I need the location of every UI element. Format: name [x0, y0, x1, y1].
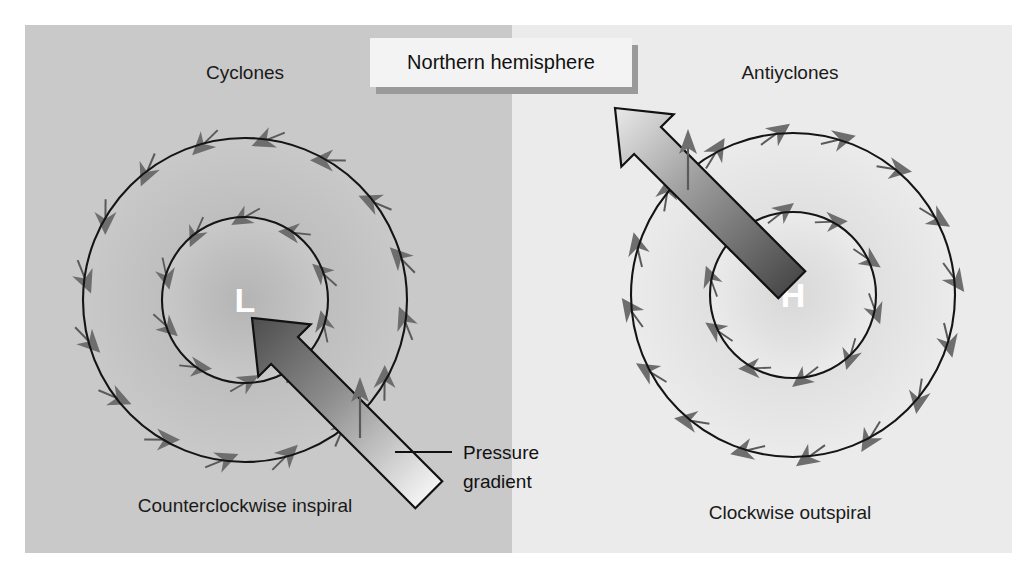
low-pressure-center-letter: L: [235, 281, 256, 319]
antiyclones-heading: Antiyclones: [741, 62, 838, 83]
pressure-gradient-label-line2: gradient: [463, 471, 532, 492]
title-banner-text: Northern hemisphere: [407, 51, 595, 73]
cyclones-caption: Counterclockwise inspiral: [138, 495, 352, 516]
pressure-systems-figure: L H Pressure gradient Northern he: [0, 0, 1035, 581]
antiyclones-caption: Clockwise outspiral: [709, 502, 872, 523]
pressure-gradient-label-line1: Pressure: [463, 442, 539, 463]
title-banner: Northern hemisphere: [370, 38, 638, 94]
diagram-canvas: L H Pressure gradient Northern he: [0, 0, 1035, 581]
cyclones-heading: Cyclones: [206, 62, 284, 83]
